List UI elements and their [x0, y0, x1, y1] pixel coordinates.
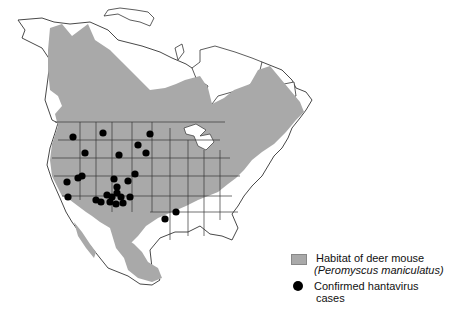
case-dot [119, 199, 126, 206]
case-dot [63, 178, 70, 185]
habitat-species: (Peromyscus maniculatus) [314, 264, 444, 276]
case-dot [110, 175, 117, 182]
legend-habitat: Habitat of deer mouse (Peromyscus manicu… [291, 252, 444, 276]
case-dot [124, 177, 131, 184]
case-dot [81, 149, 88, 156]
legend-cases: Confirmed hantavirus cases [291, 280, 444, 304]
case-dot [74, 174, 81, 181]
habitat-label: Habitat of deer mouse [314, 252, 444, 264]
case-dot [172, 208, 179, 215]
arctic-island-2 [175, 44, 184, 60]
case-dot [112, 200, 119, 207]
case-dot [99, 129, 106, 136]
habitat-swatch-icon [291, 254, 307, 265]
case-dot [134, 141, 141, 148]
case-dot [126, 193, 133, 200]
case-dot [69, 133, 76, 140]
cases-label: Confirmed hantavirus [312, 280, 419, 292]
case-dot [146, 130, 153, 137]
arctic-islands [104, 8, 154, 26]
case-dot [92, 196, 99, 203]
legend: Habitat of deer mouse (Peromyscus manicu… [291, 252, 444, 308]
case-dot [131, 170, 138, 177]
case-dot [142, 149, 149, 156]
cases-label-2: cases [312, 292, 419, 304]
case-dot [115, 151, 122, 158]
case-dot [64, 193, 71, 200]
case-dot-icon [293, 281, 303, 291]
case-dot [161, 215, 168, 222]
